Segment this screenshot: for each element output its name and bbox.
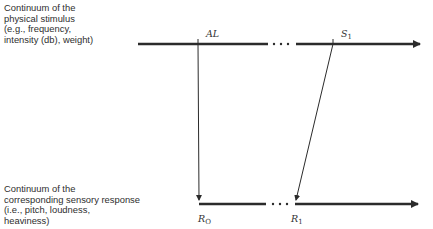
al-point-label: AL	[206, 28, 219, 39]
al-label-text: AL	[206, 28, 219, 39]
r1-point-label: R1	[291, 213, 303, 226]
r0-label-subscript: O	[205, 218, 211, 226]
response-axis-ellipsis	[272, 203, 288, 205]
r0-point-label: RO	[198, 213, 211, 226]
stimulus-axis	[138, 39, 420, 45]
response-axis	[199, 203, 418, 205]
r1-label-subscript: 1	[298, 218, 302, 226]
stimulus-axis-ellipsis	[273, 43, 289, 45]
s1-point-label: S1	[341, 28, 352, 41]
s1-label-subscript: 1	[348, 33, 352, 41]
al-to-r0-mapping-arrow	[198, 44, 199, 200]
s1-to-r1-mapping-arrow	[296, 44, 333, 200]
